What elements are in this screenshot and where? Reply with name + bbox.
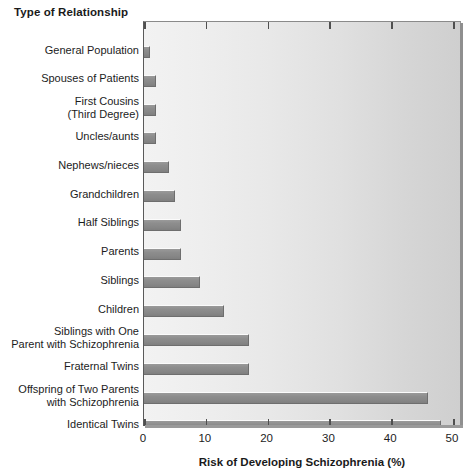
x-axis-tick-top bbox=[329, 22, 331, 29]
y-axis-label: Grandchildren bbox=[70, 188, 139, 201]
x-axis-title: Risk of Developing Schizophrenia (%) bbox=[143, 456, 461, 468]
x-axis-tick-label: 10 bbox=[198, 432, 211, 444]
y-axis-label: Children bbox=[98, 303, 139, 316]
y-axis-label: Siblings with OneParent with Schizophren… bbox=[11, 325, 139, 351]
y-axis-label-line: Fraternal Twins bbox=[64, 360, 139, 373]
y-axis-label: Nephews/nieces bbox=[58, 159, 139, 172]
y-axis-label-line: Siblings bbox=[100, 274, 139, 287]
bar bbox=[144, 363, 249, 375]
x-axis-tick-label: 0 bbox=[140, 432, 146, 444]
y-axis-label-line: Nephews/nieces bbox=[58, 159, 139, 172]
y-axis-tick-labels: General PopulationSpouses of PatientsFir… bbox=[0, 0, 139, 476]
y-axis-label: Uncles/aunts bbox=[75, 130, 139, 143]
bar bbox=[144, 161, 169, 173]
x-axis-tick-top bbox=[391, 22, 393, 29]
plot-bottom-shadow bbox=[145, 425, 463, 428]
x-axis-tick-top bbox=[453, 22, 455, 29]
bar bbox=[144, 276, 200, 288]
y-axis-label: Parents bbox=[101, 245, 139, 258]
y-axis-label-line: Children bbox=[98, 303, 139, 316]
bar bbox=[144, 219, 181, 231]
y-axis-label: General Population bbox=[45, 44, 139, 57]
plot-right-shadow bbox=[460, 23, 463, 428]
bar bbox=[144, 248, 181, 260]
y-axis-label-line: Spouses of Patients bbox=[41, 72, 139, 85]
x-axis-tick-label: 50 bbox=[446, 432, 459, 444]
y-axis-label: Identical Twins bbox=[67, 418, 139, 431]
y-axis-label-line: Identical Twins bbox=[67, 418, 139, 431]
x-axis-tick-label: 20 bbox=[260, 432, 273, 444]
bar bbox=[144, 305, 224, 317]
bar bbox=[144, 334, 249, 346]
y-axis-label: Spouses of Patients bbox=[41, 72, 139, 85]
bar bbox=[144, 190, 175, 202]
y-axis-label-line: with Schizophrenia bbox=[18, 396, 139, 409]
x-axis-tick-label: 40 bbox=[384, 432, 397, 444]
y-axis-label-line: General Population bbox=[45, 44, 139, 57]
y-axis-label: Half Siblings bbox=[78, 216, 139, 229]
bar-chart: Type of Relationship General PopulationS… bbox=[0, 0, 472, 476]
bar bbox=[144, 104, 156, 116]
plot-area bbox=[143, 21, 461, 426]
y-axis-label-line: (Third Degree) bbox=[67, 108, 139, 121]
x-axis-tick-label: 30 bbox=[322, 432, 335, 444]
x-axis-tick-top bbox=[268, 22, 270, 29]
y-axis-label-line: Half Siblings bbox=[78, 216, 139, 229]
bar bbox=[144, 132, 156, 144]
y-axis-label: Siblings bbox=[100, 274, 139, 287]
y-axis-label-line: Parents bbox=[101, 245, 139, 258]
y-axis-label-line: First Cousins bbox=[67, 95, 139, 108]
y-axis-label-line: Parent with Schizophrenia bbox=[11, 338, 139, 351]
y-axis-label: First Cousins(Third Degree) bbox=[67, 95, 139, 121]
y-axis-label: Fraternal Twins bbox=[64, 360, 139, 373]
y-axis-label-line: Grandchildren bbox=[70, 188, 139, 201]
bar bbox=[144, 46, 150, 58]
x-axis-tick-top bbox=[144, 22, 146, 29]
bar bbox=[144, 75, 156, 87]
y-axis-label-line: Siblings with One bbox=[11, 325, 139, 338]
bar bbox=[144, 392, 428, 404]
y-axis-label-line: Uncles/aunts bbox=[75, 130, 139, 143]
y-axis-label: Offspring of Two Parentswith Schizophren… bbox=[18, 383, 139, 409]
y-axis-label-line: Offspring of Two Parents bbox=[18, 383, 139, 396]
x-axis-tick-top bbox=[206, 22, 208, 29]
